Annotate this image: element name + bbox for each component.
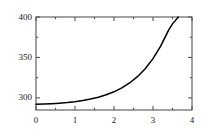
x-tick-label: 0 [26,116,46,125]
chart-figure: 300350400 01234 [0,0,208,132]
x-tick-label: 3 [143,116,163,125]
x-tick-label: 1 [65,116,85,125]
x-tick-label: 4 [182,116,202,125]
x-tick-label: 2 [104,116,124,125]
y-tick-label: 400 [6,13,32,22]
y-tick-label: 300 [6,93,32,102]
y-tick-label: 350 [6,53,32,62]
data-series [36,17,178,104]
